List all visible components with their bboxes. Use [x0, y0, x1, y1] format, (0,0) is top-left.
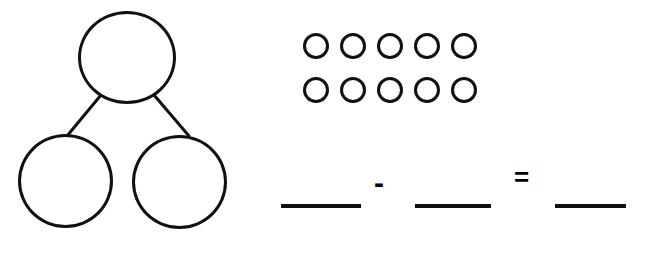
number-bond-part-left-circle[interactable]	[18, 134, 113, 228]
counter-circle-icon[interactable]	[414, 77, 440, 103]
number-bond-part-right-value	[135, 138, 224, 226]
counter-circle-icon[interactable]	[303, 77, 329, 103]
counter-circle-icon[interactable]	[303, 33, 329, 59]
number-bond-whole-circle[interactable]	[78, 11, 176, 104]
number-bond-part-left-value	[21, 137, 110, 225]
counter-circle-icon[interactable]	[377, 77, 403, 103]
counter-circle-icon[interactable]	[340, 33, 366, 59]
number-bond-whole-value	[81, 14, 173, 101]
worksheet-canvas: - =	[0, 0, 648, 256]
number-bond-diagram	[0, 0, 260, 256]
counter-row	[303, 33, 478, 59]
connector-right	[154, 95, 189, 136]
minus-sign-icon: -	[374, 168, 384, 198]
equation-blank-subtrahend[interactable]	[415, 204, 491, 208]
counter-row	[303, 77, 478, 103]
counter-circle-icon[interactable]	[340, 77, 366, 103]
counter-circle-icon[interactable]	[377, 33, 403, 59]
counter-circle-icon[interactable]	[451, 33, 477, 59]
counter-circle-icon[interactable]	[414, 33, 440, 59]
connector-left	[67, 95, 101, 136]
counter-circle-icon[interactable]	[451, 77, 477, 103]
number-bond-part-right-circle[interactable]	[132, 135, 227, 229]
equals-sign-icon: =	[514, 164, 529, 190]
counter-group	[303, 33, 478, 103]
equation-blank-difference[interactable]	[555, 204, 626, 208]
subtraction-equation: - =	[278, 160, 638, 220]
equation-blank-minuend[interactable]	[281, 204, 361, 208]
